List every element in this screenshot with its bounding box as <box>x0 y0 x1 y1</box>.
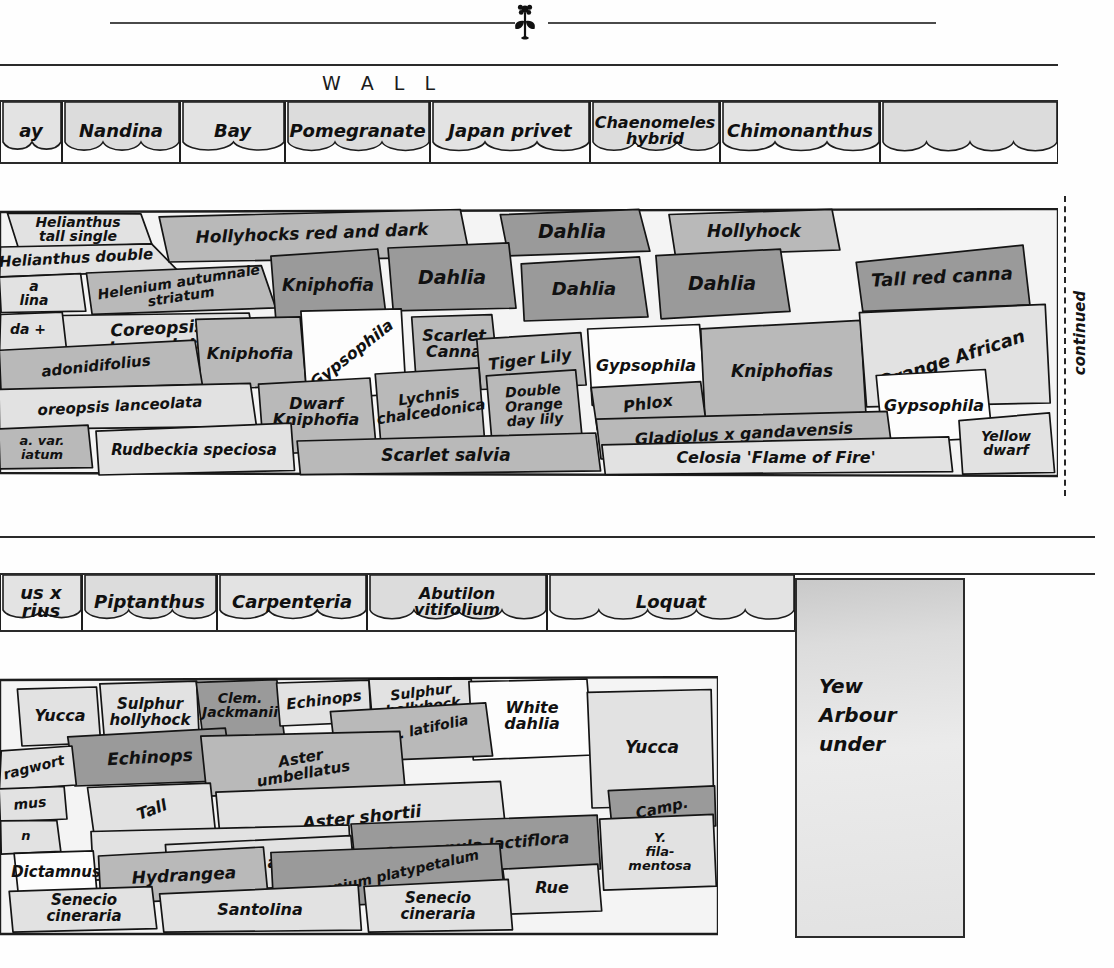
plant-cell-label: Gypsophila <box>596 356 696 375</box>
plant-cell-label: Hollyhock <box>707 221 803 241</box>
plant-cell-label: Kniphofias <box>731 361 833 381</box>
wall-shrub-label: Bay <box>181 122 284 140</box>
plant-cell-label: Dahlia <box>418 266 486 288</box>
wall-shrub-cell[interactable]: us x rius <box>0 575 82 630</box>
flower-ornament-icon <box>508 2 542 42</box>
plant-cell-label: Santolina <box>217 900 303 919</box>
plant-cell-label: Seneciocineraria <box>46 891 121 925</box>
border-plant-cell[interactable]: n <box>1 820 61 854</box>
plant-cell-label: Whitedahlia <box>504 697 559 733</box>
wall-shrub-label: us x rius <box>1 583 81 620</box>
plant-cell-label: Dahlia <box>552 278 616 299</box>
border-plant-cell[interactable]: Scarlet salvia <box>297 433 600 475</box>
border-plant-cell[interactable]: Y.fila-mentosa <box>600 814 717 890</box>
wall-shrub-label: Pomegranate <box>286 122 429 140</box>
wall-shrub-cell[interactable]: ay <box>0 102 62 162</box>
wall-shrub-cell[interactable] <box>880 102 1058 162</box>
plant-cell-label: n <box>21 828 30 843</box>
plant-cell-label: a. var.iatum <box>20 433 65 462</box>
plant-cell-label: Kniphofia <box>282 275 374 295</box>
plant-cell-label: Rudbeckia speciosa <box>111 441 277 459</box>
wall-shrub-cell[interactable]: Piptanthus <box>82 575 217 630</box>
wall-shrub-cell[interactable]: Abutilon vitifolium <box>367 575 547 630</box>
yew-arbour-label: Yew Arbour under <box>819 672 897 759</box>
dashed-edge-line <box>1064 196 1066 496</box>
wall-shrub-cell[interactable]: Nandina <box>62 102 180 162</box>
lower-wall-line-top <box>0 536 1095 538</box>
border-plant-cell[interactable]: Seneciocineraria <box>9 887 157 932</box>
lower-wall-line-bottom <box>0 630 795 632</box>
wall-shrub-cell[interactable]: Chaenomeles hybrid <box>590 102 720 162</box>
border-plant-cell[interactable]: Kniphofia <box>271 249 386 319</box>
horizontal-rule-left-icon <box>110 22 515 24</box>
header-ornament-band <box>0 0 1114 46</box>
wall-shrub-cell[interactable]: Pomegranate <box>285 102 430 162</box>
border-plant-cell[interactable]: a. var.iatum <box>0 425 92 469</box>
wall-shrub-cell[interactable]: Japan privet <box>430 102 590 162</box>
wall-shrub-label: ay <box>1 122 61 140</box>
plant-cell-label: Gypsophila <box>884 396 984 415</box>
wall-shrub-label: Loquat <box>548 593 794 611</box>
wall-shrub-cell[interactable]: Loquat <box>547 575 795 630</box>
wall-line-top <box>0 64 1058 66</box>
wall-shrub-label: Japan privet <box>431 122 589 140</box>
upper-wall-shrub-row: ayNandinaBayPomegranateJapan privetChaen… <box>0 102 1058 162</box>
main-border-band: Helianthustall singleHelianthus doubleal… <box>0 208 1058 480</box>
wall-shrub-cell[interactable]: Bay <box>180 102 285 162</box>
plant-cell-label: da + <box>10 321 46 337</box>
border-plant-cell[interactable]: Yellowdwarf <box>959 413 1055 474</box>
plant-cell-label: Dahlia <box>538 220 606 242</box>
continued-marker: continued <box>1058 196 1088 496</box>
wall-shrub-label: Chimonanthus <box>721 122 879 140</box>
plant-cell-label: Celosia 'Flame of Fire' <box>676 448 875 467</box>
plant-cell-shape <box>1 820 61 854</box>
border-plant-cell[interactable]: Dahlia <box>500 209 650 255</box>
lower-wall-shrub-row: us x riusPiptanthusCarpenteriaAbutilon v… <box>0 575 795 630</box>
plant-cell-label: Scarlet salvia <box>381 445 510 465</box>
plant-cell-label: Helianthustall single <box>35 214 120 245</box>
plant-cell-label: Yellowdwarf <box>981 428 1031 459</box>
wall-shrub-cell[interactable]: Carpenteria <box>217 575 367 630</box>
plant-cell-label: Kniphofia <box>207 344 294 363</box>
border-plant-cell[interactable]: Rue <box>503 864 602 914</box>
border-plant-cell[interactable]: Rudbeckia speciosa <box>96 423 295 475</box>
border-plant-cell[interactable]: Seneciocineraria <box>364 879 513 932</box>
wall-shrub-label: Carpenteria <box>218 593 366 611</box>
lower-border-band: YuccaSulphurhollyhockClem.JackmaniiEchin… <box>0 676 718 938</box>
shrub-blob-icon <box>881 102 1058 162</box>
border-plant-cell[interactable]: da + <box>0 312 66 351</box>
border-plant-cell[interactable]: Kniphofias <box>701 320 867 423</box>
plant-cell-label: Rue <box>535 878 569 897</box>
border-plant-cell[interactable]: Dahlia <box>521 257 648 321</box>
border-plant-cell[interactable]: ragwort <box>0 746 76 790</box>
plant-cell-label: Seneciocineraria <box>400 889 475 923</box>
plant-cell-label: mus <box>13 793 47 812</box>
horizontal-rule-right-icon <box>548 22 936 24</box>
wall-shrub-label: Piptanthus <box>83 593 216 611</box>
plant-cell-label: DoubleOrangeday lily <box>504 380 565 429</box>
border-plant-cell[interactable]: oreopsis lanceolata <box>0 383 257 429</box>
border-plant-cell[interactable]: Dahlia <box>656 249 790 319</box>
plant-cell-label: Yucca <box>625 737 679 757</box>
upper-wall-band: W A L L ayNandinaBayPomegranateJapan pri… <box>0 64 1114 164</box>
border-plant-cell[interactable]: Hollyhock <box>669 209 840 255</box>
continued-label: continued <box>1071 233 1089 433</box>
border-plant-cell[interactable]: Kniphofia <box>196 317 306 390</box>
wall-shrub-label: Nandina <box>63 122 179 140</box>
wall-shrub-label: Chaenomeles hybrid <box>591 115 719 148</box>
plant-cell-label: Sulphurhollyhock <box>110 695 192 729</box>
border-plant-cell[interactable]: alina <box>0 274 86 313</box>
wall-shrub-cell[interactable]: Chimonanthus <box>720 102 880 162</box>
wall-line-bottom <box>0 162 1058 164</box>
plant-cell-label: Dahlia <box>688 272 756 294</box>
plant-cell-label: Yucca <box>35 706 86 725</box>
wall-label: W A L L <box>322 72 442 94</box>
border-plant-cell[interactable]: Santolina <box>160 885 362 932</box>
border-plant-cell[interactable]: Lychnischalcedonica <box>373 368 486 444</box>
plant-cell-label: Dictamnus <box>11 863 101 881</box>
wall-shrub-label: Abutilon vitifolium <box>368 586 546 619</box>
yew-arbour-box: Yew Arbour under <box>795 578 965 938</box>
border-plant-cell[interactable]: Dahlia <box>388 243 516 311</box>
border-plant-cell[interactable]: mus <box>0 787 67 823</box>
